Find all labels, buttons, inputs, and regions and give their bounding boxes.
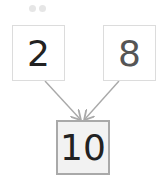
arrow-left	[45, 81, 80, 119]
whole-value: 10	[60, 127, 106, 168]
part-box-right[interactable]: 8	[103, 25, 156, 81]
part-value-right: 8	[118, 33, 141, 74]
part-value-left: 2	[27, 33, 50, 74]
arrow-right	[85, 81, 119, 119]
part-box-left[interactable]: 2	[12, 25, 65, 81]
whole-box[interactable]: 10	[56, 120, 110, 175]
